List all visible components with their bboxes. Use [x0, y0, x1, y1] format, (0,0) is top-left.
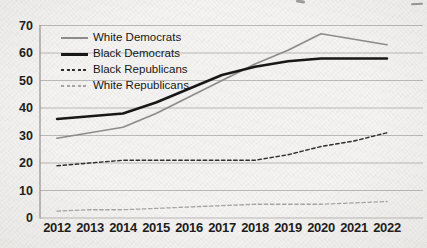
- x-tick-label: 2015: [142, 220, 170, 235]
- line-swatch-black-republicans: [61, 69, 88, 71]
- x-tick-label: 2019: [274, 220, 302, 235]
- x-tick-label: 2018: [241, 220, 269, 235]
- legend-label-black-republicans: Black Republicans: [93, 64, 188, 76]
- x-tick-label: 2012: [43, 220, 71, 235]
- series-line-black-republicans: [57, 133, 387, 166]
- x-tick-label: 2014: [109, 220, 138, 235]
- legend-label-white-democrats: White Democrats: [93, 32, 181, 44]
- legend-item-white-democrats: White Democrats: [61, 30, 189, 46]
- legend-item-black-republicans: Black Republicans: [61, 62, 189, 78]
- line-swatch-white-republicans: [61, 85, 88, 87]
- x-tick-label: 2016: [175, 220, 203, 235]
- y-tick-label: 0: [26, 211, 33, 225]
- y-tick-label: 20: [19, 156, 33, 170]
- y-tick-label: 50: [19, 74, 33, 88]
- line-swatch-white-democrats: [61, 37, 88, 39]
- x-tick-label: 2022: [373, 220, 401, 235]
- x-tick-label: 2017: [208, 220, 236, 235]
- line-swatch-black-democrats: [61, 53, 88, 56]
- y-tick-label: 60: [19, 46, 33, 60]
- y-tick-label: 40: [19, 101, 33, 115]
- series-line-white-republicans: [57, 202, 387, 212]
- chart-legend: White Democrats Black Democrats Black Re…: [61, 30, 189, 94]
- legend-label-white-republicans: White Republicans: [93, 80, 189, 92]
- x-tick-label: 2021: [340, 220, 368, 235]
- legend-item-white-republicans: White Republicans: [61, 78, 189, 94]
- chart-page: 0102030405060702012201320142015201620172…: [0, 0, 427, 248]
- y-tick-label: 70: [19, 19, 33, 33]
- legend-label-black-democrats: Black Democrats: [93, 48, 180, 60]
- x-tick-label: 2020: [307, 220, 335, 235]
- legend-item-black-democrats: Black Democrats: [61, 46, 189, 62]
- x-tick-label: 2013: [76, 220, 104, 235]
- y-tick-label: 10: [19, 184, 33, 198]
- y-tick-label: 30: [19, 129, 33, 143]
